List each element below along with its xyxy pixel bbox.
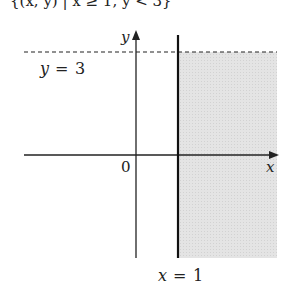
svg-text:3: 3 xyxy=(75,59,85,78)
svg-text:y: y xyxy=(39,59,50,78)
y-axis-label: y xyxy=(120,28,130,46)
x-axis-label: x xyxy=(266,158,275,176)
label-x-equals-1: x = 1 xyxy=(158,266,203,285)
header-fragment: {(x, y) | x ≥ 1, y < 3} xyxy=(10,0,172,10)
inequality-region-diagram: {(x, y) | x ≥ 1, y < 3} y x 0 y = 3 x = … xyxy=(0,0,285,294)
label-y-equals-3: y = 3 xyxy=(39,59,85,78)
origin-label: 0 xyxy=(121,158,131,176)
svg-text:1: 1 xyxy=(193,266,203,285)
svg-text:=: = xyxy=(55,59,68,78)
y-axis-arrow-icon xyxy=(132,30,140,40)
svg-text:=: = xyxy=(173,266,186,285)
svg-text:x: x xyxy=(158,266,167,285)
